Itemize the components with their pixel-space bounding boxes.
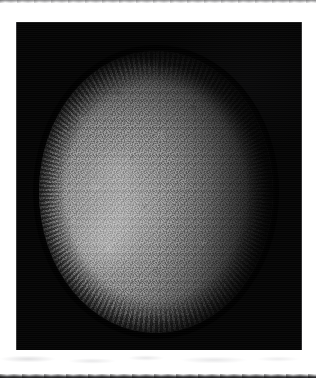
page-canvas [0, 0, 316, 378]
top-scan-line-artifact [0, 0, 316, 3]
stellar-disk [39, 51, 273, 333]
disk-edge-vignette [33, 45, 279, 339]
astronomical-plate-panel [16, 22, 302, 350]
margin-smudge-artifacts [0, 352, 316, 372]
bottom-scan-line-artifact [0, 374, 316, 378]
